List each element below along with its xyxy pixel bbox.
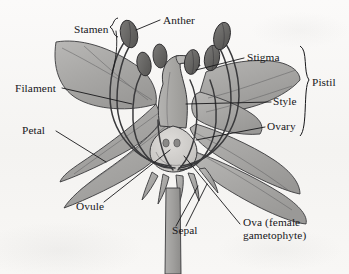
brace-pistil (300, 46, 309, 136)
leader-anther (136, 20, 160, 30)
anther-3 (152, 44, 168, 69)
flower-anatomy-diagram: Stamen Anther Stigma Style Ovary Pistil … (0, 0, 349, 274)
label-stigma: Stigma (247, 51, 280, 64)
ovum-right (174, 139, 180, 147)
label-stamen: Stamen (74, 23, 109, 36)
label-sepal: Sepal (172, 224, 198, 237)
anther-4 (183, 49, 201, 76)
sepal-1 (142, 172, 158, 200)
label-anther: Anther (163, 14, 195, 27)
label-ova: Ova (female gametophyte) (243, 216, 306, 241)
label-style: Style (273, 95, 297, 108)
leader-petal (56, 131, 106, 162)
label-pistil: Pistil (312, 76, 336, 89)
label-ovary: Ovary (267, 120, 296, 133)
label-petal: Petal (22, 124, 45, 137)
label-filament: Filament (15, 82, 56, 95)
ovum-left (163, 139, 169, 147)
label-ovule: Ovule (76, 200, 104, 213)
